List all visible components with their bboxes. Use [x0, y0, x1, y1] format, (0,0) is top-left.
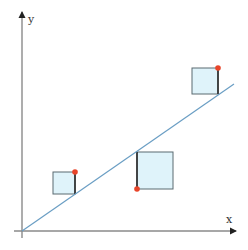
residual-square-middle: [137, 152, 173, 189]
regression-line: [22, 84, 234, 231]
residual-square-right: [192, 68, 218, 94]
diagram-canvas: y x: [0, 0, 248, 250]
x-axis-label: x: [226, 213, 233, 226]
data-point-left: [72, 169, 78, 175]
y-axis-label: y: [27, 13, 35, 26]
axes: y x: [14, 12, 236, 238]
residual-square-left: [53, 172, 75, 194]
data-point-middle: [134, 186, 140, 192]
data-point-right: [215, 65, 221, 71]
regression-diagram: y x: [0, 0, 248, 250]
